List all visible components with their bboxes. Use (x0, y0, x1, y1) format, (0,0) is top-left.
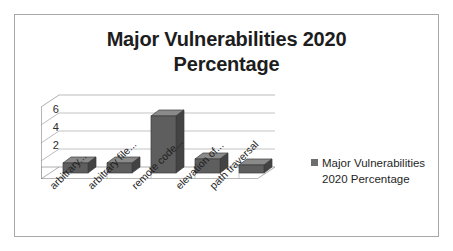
legend-swatch-icon (311, 159, 318, 166)
x-axis-labels: arbitrary... arbitrary file... remote co… (15, 15, 438, 236)
legend-label-line-2: 2020 Percentage (322, 171, 441, 187)
x-axis-label-1: arbitrary... (47, 150, 88, 191)
chart-legend[interactable]: Major Vulnerabilities 2020 Percentage (311, 155, 441, 187)
legend-label-line-1: Major Vulnerabilities (322, 157, 425, 169)
chart-frame: Major Vulnerabilities 2020 Percentage 60… (14, 14, 439, 237)
